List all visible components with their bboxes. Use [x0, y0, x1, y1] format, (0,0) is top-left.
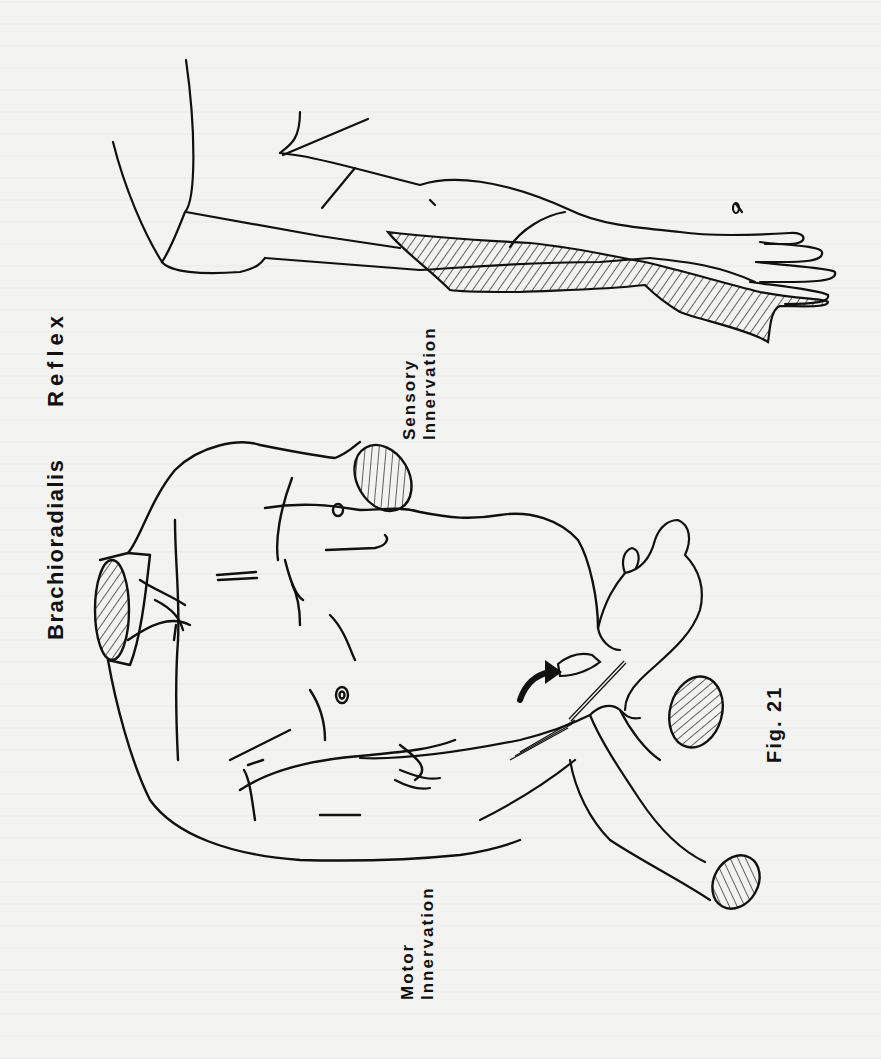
reflex-hammer-icon [510, 654, 625, 760]
figure-illustration [0, 0, 881, 1059]
motor-innervation-label: Motor Innervation [398, 886, 437, 1000]
figure-number: Fig. 21 [763, 686, 786, 763]
scanned-page: Brachioradialis Reflex Sensory Innervati… [0, 0, 881, 1059]
left-shoulder-section [95, 560, 129, 660]
figure-title-reflex: Reflex [43, 311, 68, 407]
torso-drawing [100, 442, 598, 861]
motor-label-line1: Motor [398, 886, 418, 1000]
sensory-label-line2: Innervation [420, 326, 440, 440]
forearm-section [703, 847, 769, 917]
examiner-hands-drawing [360, 520, 710, 900]
sensory-label-line1: Sensory [400, 326, 420, 440]
curved-arrow-icon [520, 660, 562, 700]
motor-label-line2: Innervation [418, 886, 438, 1000]
sensory-innervation-label: Sensory Innervation [400, 326, 439, 440]
sensory-hatched-area [388, 232, 828, 342]
figure-title-brachioradialis: Brachioradialis [43, 459, 68, 640]
right-arm-section [662, 670, 731, 753]
